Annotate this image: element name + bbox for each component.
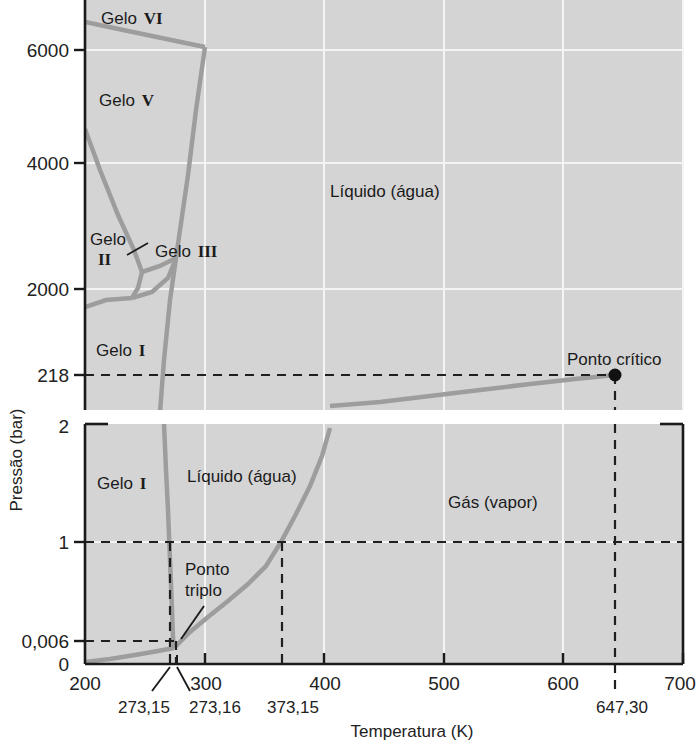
upper-ytick-label-2000: 2000 xyxy=(27,279,69,300)
phase-diagram-svg: 6000 4000 2000 218 Gelo VI Gelo V Gelo I… xyxy=(0,0,699,749)
xtick-label-37315: 373,15 xyxy=(267,698,319,717)
xtick-label-500: 500 xyxy=(428,673,460,694)
xtick-label-400: 400 xyxy=(309,673,341,694)
upper-y-ticks xyxy=(74,50,85,375)
xtick-label-64730: 647,30 xyxy=(596,698,648,717)
annotation-ponto-critico: Ponto crítico xyxy=(567,350,662,369)
region-label-gelo-vi: Gelo VI xyxy=(101,9,163,28)
region-label-gelo-ii-numeral: II xyxy=(98,250,112,269)
region-label-liquido-lower: Líquido (água) xyxy=(187,467,297,486)
xtick-label-27316: 273,16 xyxy=(189,698,241,717)
leader-27316 xyxy=(177,667,190,691)
upper-ytick-label-4000: 4000 xyxy=(27,153,69,174)
lower-ytick-label-1: 1 xyxy=(58,532,69,553)
annotation-ponto-triplo-line1: Ponto xyxy=(185,560,229,579)
xtick-label-300: 300 xyxy=(190,673,222,694)
region-label-gelo-i-upper: Gelo I xyxy=(96,341,146,360)
region-label-gas-vapor: Gás (vapor) xyxy=(448,493,538,512)
upper-panel: 6000 4000 2000 218 Gelo VI Gelo V Gelo I… xyxy=(27,0,683,412)
region-label-gelo-iii: Gelo III xyxy=(155,242,218,261)
upper-ytick-label-218: 218 xyxy=(37,365,69,386)
upper-ytick-label-6000: 6000 xyxy=(27,40,69,61)
region-label-gelo-v: Gelo V xyxy=(99,91,155,110)
lower-ytick-label-2: 2 xyxy=(58,416,69,437)
xtick-label-200: 200 xyxy=(69,673,101,694)
region-label-gelo-i-lower: Gelo I xyxy=(97,474,147,493)
lower-y-ticks xyxy=(74,542,85,641)
xtick-label-600: 600 xyxy=(547,673,579,694)
phase-diagram-figure: 6000 4000 2000 218 Gelo VI Gelo V Gelo I… xyxy=(0,0,699,749)
xtick-label-700: 700 xyxy=(664,673,696,694)
upper-plot-background xyxy=(85,0,683,410)
x-axis-title: Temperatura (K) xyxy=(351,722,474,741)
annotation-ponto-triplo-line2: triplo xyxy=(185,581,222,600)
lower-ytick-label-0: 0 xyxy=(58,654,69,675)
region-label-gelo-ii: Gelo xyxy=(90,230,126,249)
ponto-critico-marker xyxy=(609,369,622,382)
leader-27315 xyxy=(152,667,170,691)
lower-panel: 2 1 0,006 0 200 300 400 500 600 700 273,… xyxy=(21,416,695,717)
lower-ytick-label-0006: 0,006 xyxy=(21,631,69,652)
xtick-label-27315: 273,15 xyxy=(118,698,170,717)
y-axis-title: Pressão (bar) xyxy=(7,409,26,512)
region-label-liquido-upper: Líquido (água) xyxy=(330,182,440,201)
